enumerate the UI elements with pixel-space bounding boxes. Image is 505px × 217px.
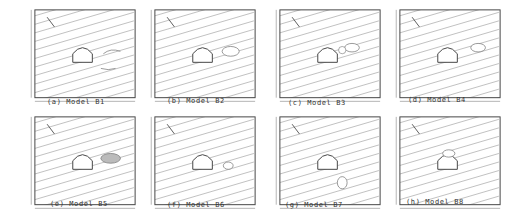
caption-a: (a) Model B1 — [47, 98, 105, 106]
caption-b: (b) Model B2 — [167, 97, 225, 105]
caption-e: (e) Model B5 — [50, 200, 108, 208]
caption-g: (g) Model B7 — [285, 201, 343, 209]
caption-h: (h) Model B8 — [406, 198, 464, 206]
caption-d: (d) Model B4 — [408, 96, 466, 104]
panel-e — [30, 112, 140, 212]
panel-c — [275, 5, 385, 105]
panel-d — [395, 5, 505, 105]
panel-a — [30, 5, 140, 105]
caption-f: (f) Model B6 — [167, 201, 225, 209]
panel-f — [150, 112, 260, 212]
caption-c: (c) Model B3 — [288, 99, 346, 107]
panel-h — [395, 112, 505, 212]
panel-b — [150, 5, 260, 105]
panel-g — [275, 112, 385, 212]
